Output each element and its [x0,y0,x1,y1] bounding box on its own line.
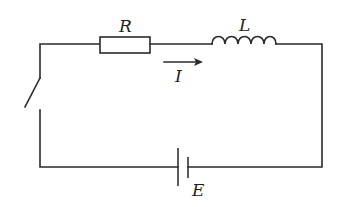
inductor-label: L [238,15,250,35]
resistor [100,37,150,53]
resistor-label: R [118,16,132,36]
wire-right [188,44,322,167]
current-label: I [174,66,182,86]
battery-label: E [191,180,205,200]
inductor [212,37,276,45]
circuit-diagram: R L I E [0,0,340,207]
switch [25,78,40,107]
wire-top-left [40,44,100,78]
wire-bottom-left [40,110,178,167]
